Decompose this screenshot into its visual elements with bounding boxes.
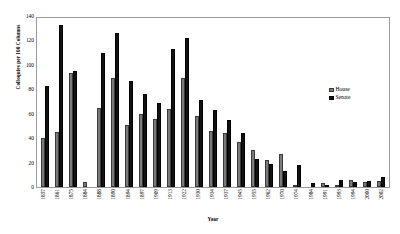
x-axis-tick: 1861 [55, 189, 60, 200]
bar-group [318, 18, 332, 187]
bar-senate [269, 164, 272, 187]
bar-group [290, 18, 304, 187]
bar-house [167, 109, 170, 187]
bar-senate [129, 81, 132, 187]
bar-house [335, 185, 338, 187]
x-axis-tick: 1888 [98, 189, 103, 200]
bar-house [377, 181, 380, 187]
x-axis-tick: 1890 [112, 189, 117, 200]
x-axis-tick: 1875 [70, 189, 75, 200]
bar-group [150, 18, 164, 187]
bar-group [164, 18, 178, 187]
x-axis-tick-cell: 1884 [79, 189, 93, 215]
x-axis-tick-cell: 1993 [333, 189, 347, 215]
bar-group [262, 18, 276, 187]
legend: HouseSenate [329, 87, 350, 101]
bar-senate [325, 185, 328, 187]
bar-house [55, 132, 58, 187]
bar-senate [59, 25, 62, 187]
bar-group [94, 18, 108, 187]
bar-group [234, 18, 248, 187]
x-axis-tick-cell: 1974 [290, 189, 304, 215]
x-axis-tick-cell: 1875 [65, 189, 79, 215]
bar-senate [185, 38, 188, 187]
bar-house [153, 119, 156, 187]
bar-senate [367, 181, 370, 187]
bar-house [279, 154, 282, 187]
x-axis-tick-cell: 1955 [248, 189, 262, 215]
legend-swatch-icon [329, 88, 334, 93]
y-axis-tick: 80 [14, 88, 34, 93]
x-axis-tick: 1991 [323, 189, 328, 200]
bar-house [349, 180, 352, 187]
bar-house [181, 78, 184, 187]
x-axis-title: Year [36, 216, 390, 222]
bar-group [206, 18, 220, 187]
legend-item-senate: Senate [329, 95, 350, 101]
x-axis-tick-cell: 1991 [319, 189, 333, 215]
bar-house [111, 78, 114, 187]
bar-senate [171, 49, 174, 187]
x-axis-tick: 1857 [41, 189, 46, 200]
bar-house [223, 133, 226, 187]
y-axis-tick-labels: 020406080100120140 [14, 17, 34, 188]
bar-group [122, 18, 136, 187]
x-axis-tick: 2000 [365, 189, 370, 200]
bar-senate [311, 183, 314, 187]
bar-house [139, 114, 142, 187]
x-axis-tick-cell: 1945 [234, 189, 248, 215]
bar-house [321, 183, 324, 187]
x-axis-tick-cell: 1937 [220, 189, 234, 215]
y-axis-tick: 0 [14, 185, 34, 190]
x-axis-tick-cell: 1962 [262, 189, 276, 215]
bar-house [265, 160, 268, 187]
bar-house [209, 131, 212, 187]
legend-label: House [336, 87, 350, 93]
x-axis-tick-cell: 1930 [192, 189, 206, 215]
x-axis-tick: 1934 [210, 189, 215, 200]
y-axis-tick: 100 [14, 63, 34, 68]
bar-chart: Colloquies per 100 Columns 0204060801001… [0, 0, 400, 234]
bar-group [374, 18, 388, 187]
legend-item-house: House [329, 87, 350, 93]
x-axis-tick-cell: 1857 [37, 189, 51, 215]
bar-group [108, 18, 122, 187]
plot-area: HouseSenate [36, 17, 390, 188]
bar-house [69, 73, 72, 187]
x-axis-tick-cell: 1994 [347, 189, 361, 215]
bar-group [38, 18, 52, 187]
bar-group [192, 18, 206, 187]
x-axis-tick: 1909 [154, 189, 159, 200]
x-axis-tick-labels: 1857186118751884188818901894189719091913… [36, 189, 390, 215]
bar-house [293, 185, 296, 187]
bar-house [237, 142, 240, 187]
x-axis-tick: 1913 [168, 189, 173, 200]
x-axis-tick-cell: 1913 [164, 189, 178, 215]
y-axis-tick: 120 [14, 39, 34, 44]
x-axis-tick-cell: 1909 [150, 189, 164, 215]
bar-house [195, 116, 198, 187]
bar-group [248, 18, 262, 187]
bar-group [332, 18, 346, 187]
x-axis-tick-cell: 1984 [304, 189, 318, 215]
legend-label: Senate [336, 95, 351, 101]
bar-group [220, 18, 234, 187]
x-axis-tick-cell: 1890 [107, 189, 121, 215]
x-axis-tick-cell: 1861 [51, 189, 65, 215]
bar-senate [339, 180, 342, 187]
y-axis-tick: 40 [14, 136, 34, 141]
bar-senate [73, 71, 76, 187]
bar-group [360, 18, 374, 187]
x-axis-tick-cell: 1897 [136, 189, 150, 215]
bar-group [52, 18, 66, 187]
y-axis-tick: 60 [14, 112, 34, 117]
bar-house [97, 108, 100, 187]
bar-group [304, 18, 318, 187]
x-axis-tick-cell: 2002 [375, 189, 389, 215]
bars-layer [37, 18, 389, 187]
x-axis-tick: 1994 [351, 189, 356, 200]
x-axis-tick: 1970 [281, 189, 286, 200]
x-axis-tick: 1922 [182, 189, 187, 200]
bar-senate [45, 86, 48, 187]
bar-group [66, 18, 80, 187]
